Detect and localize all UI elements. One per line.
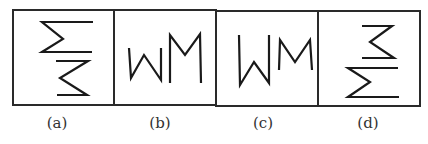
option-b-w-shape: [129, 48, 161, 80]
option-d-label: (d): [348, 113, 388, 133]
option-d-sigma-shape: [348, 68, 399, 97]
option-c-w-shape: [239, 35, 269, 85]
option-d-reversed-sigma-shape: [362, 26, 394, 58]
option-b-label: (b): [140, 113, 180, 133]
option-a-panel: [13, 10, 114, 105]
option-b-m-shape: [170, 34, 201, 83]
option-b-panel: [114, 10, 216, 105]
option-c-panel: [216, 11, 318, 106]
option-c-frame: [216, 11, 318, 106]
option-a-sigma-shape: [42, 22, 93, 52]
option-d-panel: [318, 11, 420, 106]
option-c-m-shape: [279, 40, 312, 70]
option-a-frame: [13, 10, 114, 105]
option-a-label: (a): [37, 113, 77, 133]
option-c-label: (c): [243, 113, 283, 133]
option-a-reversed-sigma-shape: [56, 61, 88, 95]
